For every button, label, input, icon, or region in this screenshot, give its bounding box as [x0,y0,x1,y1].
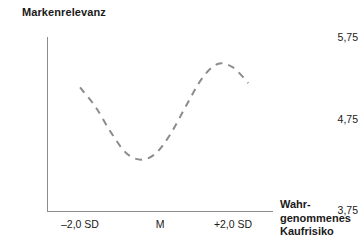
y-axis-line [47,37,48,212]
x-axis-tick-label-plus-2sd: +2,0 SD [193,218,273,230]
y-axis-tick-label-middle: 4,75 [314,113,358,125]
y-axis-tick-label-top: 5,75 [314,31,358,43]
x-axis-tick-label-minus-2sd: –2,0 SD [40,218,120,230]
x-axis-title: Wahr- genommenes Kaufrisiko [280,198,351,239]
x-axis-title-line-2: genommenes [280,212,351,226]
chart-container: Markenrelevanz 5,75 4,75 3,75 –2,0 SD M … [0,0,358,248]
y-axis-title: Markenrelevanz [22,6,106,18]
x-axis-line [47,211,273,212]
x-axis-tick-label-mean: M [120,218,200,230]
x-axis-title-line-1: Wahr- [280,198,351,212]
series-line-markenrelevanz [80,63,248,159]
x-axis-title-line-3: Kaufrisiko [280,225,351,239]
